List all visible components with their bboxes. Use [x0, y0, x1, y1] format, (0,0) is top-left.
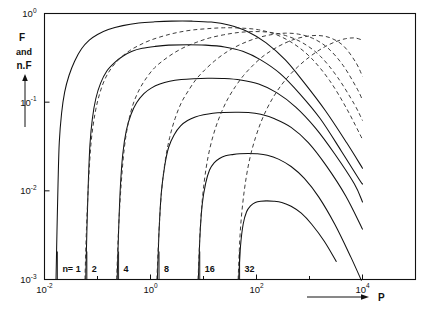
n-label-4: 4 — [124, 264, 129, 274]
n-label-32: 32 — [245, 264, 255, 274]
y-axis-title-line-3: n.F — [17, 60, 32, 71]
y-axis-title-line-1: F — [19, 32, 25, 43]
chart-svg: 10010-110-210-3 10-2100102104 n= 1248163… — [0, 0, 430, 312]
n-label-2: 2 — [92, 264, 97, 274]
x-axis-title-label: P — [378, 292, 385, 303]
n-label-8: 8 — [164, 264, 169, 274]
y-axis-title-line-2: and — [16, 47, 32, 57]
figure-container: 10010-110-210-3 10-2100102104 n= 1248163… — [0, 0, 430, 312]
n-label-16: 16 — [205, 264, 215, 274]
n-label-1: n= 1 — [62, 264, 80, 274]
